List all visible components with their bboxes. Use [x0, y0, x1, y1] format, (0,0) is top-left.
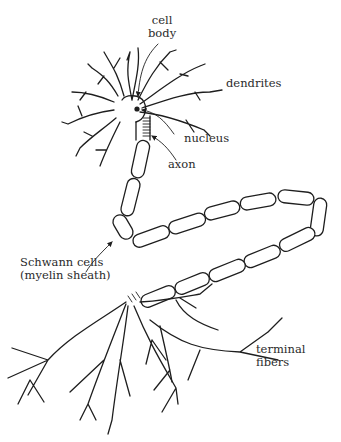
label-dendrites: dendrites — [226, 77, 281, 90]
label-terminal-line2: fibers — [256, 356, 305, 369]
axon-hillock — [136, 116, 150, 140]
label-schwann-cells: Schwann cells (myelin sheath) — [20, 256, 111, 282]
label-cell-body-line2: body — [148, 27, 176, 40]
label-cell-body: cell body — [148, 14, 176, 40]
label-nucleus: nucleus — [184, 132, 229, 145]
label-terminal-fibers: terminal fibers — [256, 343, 305, 369]
label-schwann-line2: (myelin sheath) — [20, 269, 111, 282]
label-axon: axon — [168, 158, 196, 171]
neuron-diagram: cell body dendrites nucleus axon Schwann… — [0, 0, 341, 442]
neuron-illustration — [0, 0, 341, 442]
terminal-hatching — [128, 292, 140, 302]
nucleus-dot — [134, 106, 139, 111]
myelin-sheath — [110, 139, 327, 309]
